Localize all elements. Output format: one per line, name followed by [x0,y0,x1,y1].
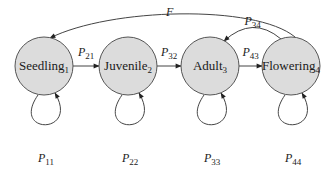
node-seedling: Seedling1 [15,37,73,95]
edge-label-f: F [165,5,174,19]
edge-3-3 [197,93,226,125]
edge-label-p32: P32 [160,45,177,61]
edge-2-2 [115,93,144,125]
node-label: Seedling1 [19,58,69,75]
edge-labels: P21P32P43P34FP11P22P33P44 [37,5,302,167]
node-adult: Adult3 [181,37,239,95]
node-juvenile: Juvenile2 [99,37,157,95]
node-label: Flowering4 [262,58,320,75]
edge-4-4 [278,93,307,125]
node-flowering: Flowering4 [262,37,320,95]
edge-label-p22: P22 [121,151,138,167]
life-cycle-diagram: Seedling1Juvenile2Adult3Flowering4 P21P3… [0,0,328,174]
edge-label-p43: P43 [242,45,260,61]
edge-label-p21: P21 [77,45,94,61]
node-label: Adult3 [193,58,228,75]
edge-label-p44: P44 [284,151,302,167]
edge-label-p34: P34 [244,14,262,30]
edge-label-p11: P11 [37,151,54,167]
edge-1-1 [31,93,60,125]
node-label: Juvenile2 [104,58,152,75]
edge-label-p33: P33 [203,151,221,167]
